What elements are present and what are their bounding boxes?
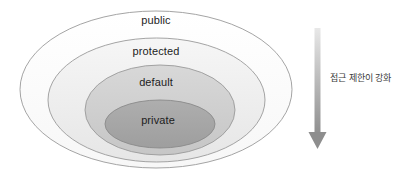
venn-diagram-svg (0, 0, 418, 177)
ring-label-private: private (112, 114, 204, 127)
arrow-caption: 접근 제한이 강화 (330, 72, 408, 84)
ring-label-public: public (106, 14, 206, 27)
ring-label-protected: protected (106, 45, 206, 58)
ring-label-default: default (110, 76, 202, 89)
down-arrow-icon (309, 28, 327, 149)
diagram-root: public protected default private 접근 제한이 … (0, 0, 418, 177)
